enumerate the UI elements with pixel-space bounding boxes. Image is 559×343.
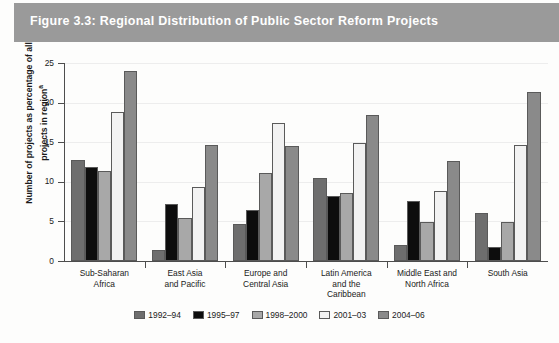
bar	[246, 210, 259, 261]
legend-item: 1998–2000	[252, 310, 308, 320]
bar	[205, 145, 218, 261]
x-axis-category-label: Europe andCentral Asia	[225, 268, 306, 289]
bar	[501, 222, 514, 261]
legend-swatch	[378, 311, 389, 319]
bar	[327, 196, 340, 261]
figure-title-banner: Figure 3.3: Regional Distribution of Pub…	[14, 3, 559, 42]
bar	[152, 250, 165, 261]
legend-label: 2001–03	[333, 310, 366, 320]
bar	[313, 178, 326, 261]
bar	[366, 115, 379, 261]
bar	[434, 191, 447, 261]
bar	[111, 112, 124, 261]
bar	[447, 161, 460, 261]
bar	[420, 222, 433, 261]
legend-swatch	[252, 311, 263, 319]
bar	[353, 143, 366, 261]
legend-item: 1995–97	[193, 310, 240, 320]
bar	[285, 146, 298, 261]
bar	[165, 204, 178, 261]
legend-label: 1992–94	[148, 310, 181, 320]
figure-title: Figure 3.3: Regional Distribution of Pub…	[30, 14, 438, 28]
bar	[340, 193, 353, 261]
bar	[394, 245, 407, 261]
bar	[124, 71, 137, 261]
bars-layer	[0, 50, 559, 280]
x-axis-category-label: South Asia	[467, 268, 548, 279]
legend-label: 1995–97	[207, 310, 240, 320]
bar	[272, 123, 285, 261]
chart-plot-area: Number of projects as percentage of all …	[0, 50, 559, 280]
legend-item: 2001–03	[319, 310, 366, 320]
bar	[192, 187, 205, 261]
legend-label: 2004–06	[392, 310, 425, 320]
legend-label: 1998–2000	[266, 310, 308, 320]
bar	[178, 218, 191, 261]
chart-legend: 1992–941995–971998–20002001–032004–06	[0, 310, 559, 320]
bar	[233, 224, 246, 261]
figure-page: Figure 3.3: Regional Distribution of Pub…	[0, 0, 559, 343]
bar	[71, 160, 84, 261]
bar	[514, 145, 527, 261]
legend-swatch	[319, 311, 330, 319]
bar	[259, 173, 272, 261]
bar	[475, 213, 488, 261]
x-axis-category-label: East Asiaand Pacific	[145, 268, 226, 289]
legend-swatch	[193, 311, 204, 319]
bar	[85, 167, 98, 261]
bar	[98, 171, 111, 261]
bar	[488, 247, 501, 261]
bar	[527, 92, 540, 261]
x-axis-category-label: Sub-SaharanAfrica	[64, 268, 145, 289]
x-axis-category-label: Latin Americaand theCaribbean	[306, 268, 387, 300]
legend-swatch	[134, 311, 145, 319]
legend-item: 2004–06	[378, 310, 425, 320]
x-axis-category-label: Middle East andNorth Africa	[387, 268, 468, 289]
bar	[407, 201, 420, 261]
legend-item: 1992–94	[134, 310, 181, 320]
